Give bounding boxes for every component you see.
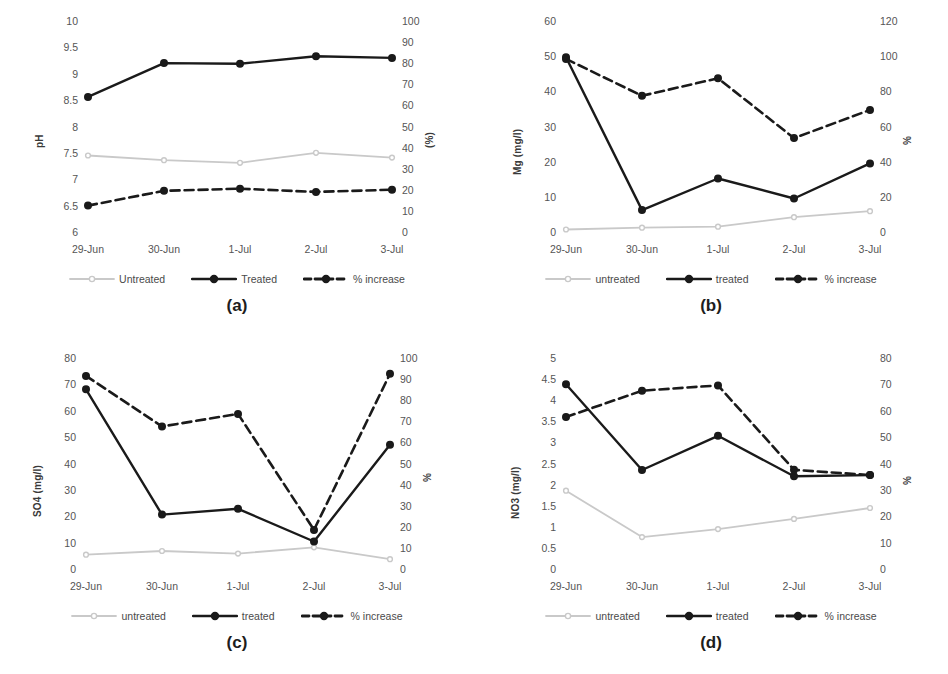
x-tick-label: 3-Jul xyxy=(360,243,424,255)
x-tick-label: 2-Jul xyxy=(284,243,348,255)
legend-label: untreated xyxy=(121,610,165,622)
y-tick-label: 80 xyxy=(36,352,76,364)
plot-area-b: Mg (mg/l) % 0102030405060020406080100120… xyxy=(474,0,948,258)
legend-marker-icon xyxy=(71,610,117,622)
legend-label: % increase xyxy=(353,273,405,285)
legend-label: Untreated xyxy=(119,273,165,285)
x-tick-label: 29-Jun xyxy=(534,580,598,592)
y-tick-label: 20 xyxy=(36,510,76,522)
y-tick-label: 0 xyxy=(516,226,556,238)
series-line--increase xyxy=(566,385,870,475)
y2-tick-label: 40 xyxy=(402,142,442,154)
y2-tick-label: 0 xyxy=(400,563,440,575)
y2-tick-label: 20 xyxy=(402,184,442,196)
y2-tick-label: 70 xyxy=(402,78,442,90)
y-tick-label: 2.5 xyxy=(516,458,556,470)
y2-tick-label: 30 xyxy=(400,500,440,512)
legend-item--increase[interactable]: % increase xyxy=(775,273,877,285)
data-point xyxy=(867,472,873,478)
legend-marker-icon xyxy=(666,273,712,285)
data-point xyxy=(83,386,89,392)
y2-tick-label: 0 xyxy=(880,563,920,575)
legend-item-untreated[interactable]: untreated xyxy=(545,273,639,285)
legend-item--increase[interactable]: % increase xyxy=(303,273,405,285)
figure-sheet: pH (%) 66.577.588.599.510010203040506070… xyxy=(0,0,948,674)
legend-item--increase[interactable]: % increase xyxy=(775,610,877,622)
data-point xyxy=(389,55,395,61)
data-point xyxy=(237,61,243,67)
y2-axis-title-b: % xyxy=(902,136,913,145)
x-tick-label: 29-Jun xyxy=(534,243,598,255)
legend-b: untreatedtreated% increase xyxy=(474,268,948,290)
legend-label: untreated xyxy=(595,610,639,622)
legend-item-treated[interactable]: treated xyxy=(666,610,749,622)
data-point xyxy=(237,186,243,192)
y2-tick-label: 100 xyxy=(402,15,442,27)
y-tick-label: 5 xyxy=(516,352,556,364)
y-tick-label: 3 xyxy=(516,436,556,448)
data-point xyxy=(160,549,165,554)
data-point xyxy=(162,158,167,163)
x-tick-label: 1-Jul xyxy=(206,580,270,592)
y2-tick-label: 40 xyxy=(880,156,920,168)
data-point xyxy=(159,511,165,517)
y-tick-label: 3.5 xyxy=(516,415,556,427)
x-tick-label: 3-Jul xyxy=(358,580,422,592)
y2-tick-label: 20 xyxy=(400,521,440,533)
panel-caption-d: (d) xyxy=(474,633,948,653)
y-tick-label: 30 xyxy=(36,484,76,496)
y-tick-label: 7.5 xyxy=(38,147,78,159)
legend-marker-icon xyxy=(301,610,347,622)
y-tick-label: 1.5 xyxy=(516,500,556,512)
data-point xyxy=(387,371,393,377)
panel-caption-a: (a) xyxy=(0,296,474,316)
data-point xyxy=(238,160,243,165)
x-tick-label: 30-Jun xyxy=(132,243,196,255)
data-point xyxy=(715,433,721,439)
data-point xyxy=(85,202,91,208)
legend-item-untreated[interactable]: untreated xyxy=(71,610,165,622)
y2-tick-label: 10 xyxy=(400,542,440,554)
data-point xyxy=(640,225,645,230)
y2-tick-label: 10 xyxy=(880,537,920,549)
legend-item-treated[interactable]: Treated xyxy=(191,273,277,285)
y2-tick-label: 40 xyxy=(880,458,920,470)
legend-item-treated[interactable]: treated xyxy=(192,610,275,622)
data-point xyxy=(86,153,91,158)
data-point xyxy=(388,557,393,562)
legend-item-treated[interactable]: treated xyxy=(666,273,749,285)
y2-tick-label: 60 xyxy=(880,405,920,417)
y2-tick-label: 60 xyxy=(880,121,920,133)
legend-label: untreated xyxy=(595,273,639,285)
y-tick-label: 50 xyxy=(516,50,556,62)
panel-caption-b: (b) xyxy=(474,296,948,316)
data-point xyxy=(161,188,167,194)
y-tick-label: 4.5 xyxy=(516,373,556,385)
y-tick-label: 6 xyxy=(38,226,78,238)
y-tick-label: 30 xyxy=(516,121,556,133)
y-tick-label: 9.5 xyxy=(38,41,78,53)
data-point xyxy=(85,94,91,100)
y2-tick-label: 40 xyxy=(400,479,440,491)
data-point xyxy=(159,423,165,429)
x-tick-label: 3-Jul xyxy=(838,243,902,255)
y2-tick-label: 20 xyxy=(880,191,920,203)
data-point xyxy=(311,538,317,544)
data-point xyxy=(387,442,393,448)
plot-area-c: SO4 (mg/l) % 010203040506070800102030405… xyxy=(0,337,474,595)
plot-area-d: NO3 (mg/l) % 00.511.522.533.544.55010203… xyxy=(474,337,948,595)
y2-tick-label: 30 xyxy=(402,163,442,175)
legend-item-untreated[interactable]: Untreated xyxy=(69,273,165,285)
y-tick-label: 40 xyxy=(36,458,76,470)
legend-item--increase[interactable]: % increase xyxy=(301,610,403,622)
y2-tick-label: 60 xyxy=(402,99,442,111)
data-point xyxy=(564,488,569,493)
y2-tick-label: 80 xyxy=(880,352,920,364)
x-tick-label: 2-Jul xyxy=(762,243,826,255)
legend-item-untreated[interactable]: untreated xyxy=(545,610,639,622)
x-tick-label: 29-Jun xyxy=(54,580,118,592)
data-point xyxy=(868,506,873,511)
legend-label: % increase xyxy=(825,610,877,622)
data-point xyxy=(792,215,797,220)
y-tick-label: 2 xyxy=(516,479,556,491)
